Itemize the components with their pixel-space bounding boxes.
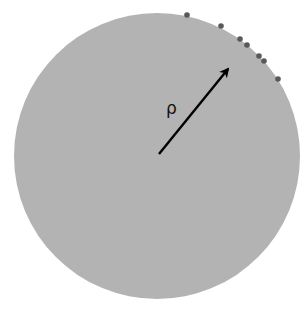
- boundary-point: [218, 23, 224, 29]
- boundary-point: [261, 58, 267, 64]
- disk-diagram: ρ: [0, 0, 308, 310]
- boundary-point: [184, 12, 190, 18]
- radius-label-rho: ρ: [166, 98, 177, 118]
- boundary-point: [244, 42, 250, 48]
- boundary-point: [237, 36, 243, 42]
- boundary-point: [275, 76, 281, 82]
- boundary-point: [256, 53, 262, 59]
